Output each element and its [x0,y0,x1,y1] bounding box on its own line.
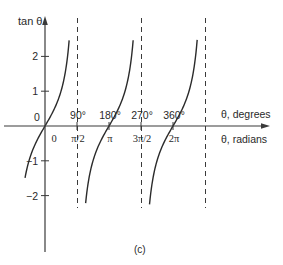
x-tick-label-radians: 0 [51,133,56,144]
y-axis-label: tan θ [18,15,42,27]
x-tick-label-degrees: 180° [99,109,121,121]
y-tick-label: −1 [26,155,38,167]
tan-curves [25,40,197,205]
y-axis-arrow-icon [42,16,48,25]
origin-label: 0 [34,111,40,123]
y-tick-label: −2 [26,190,38,202]
x-tick-label-degrees: 90° [70,109,86,121]
x-tick-label-radians: 2π [169,133,180,144]
x-axis-label-radians: θ, radians [221,133,267,145]
figure-caption: (c) [134,244,146,255]
tan-branch [86,40,134,203]
x-axis-label-degrees: θ, degrees [221,108,271,120]
x-tick-label-radians: π [107,133,113,144]
x-tick-label-degrees: 270° [131,109,153,121]
tangent-chart: 21−1−2 0π/2π3π/22π90°180°270°360° tan θ … [0,0,283,265]
y-tick-label: 1 [32,85,38,97]
y-tick-label: 2 [32,50,38,62]
x-tick-label-radians: π/2 [71,133,84,144]
x-tick-label-radians: 3π/2 [133,133,152,144]
x-axis-arrow-icon [261,123,270,129]
x-tick-label-degrees: 360° [163,109,185,121]
